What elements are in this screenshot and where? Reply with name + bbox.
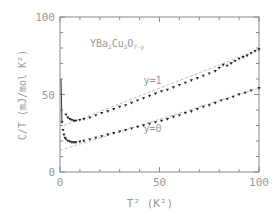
triangle-down-marker bbox=[226, 98, 229, 101]
triangle-down-marker bbox=[142, 97, 145, 100]
triangle-down-marker bbox=[214, 102, 217, 105]
triangle-down-marker bbox=[253, 50, 256, 53]
y-axis-label: C/T (mJ/mol K²) bbox=[17, 50, 28, 140]
tick-labels: 050100050100 bbox=[35, 11, 269, 189]
triangle-down-marker bbox=[130, 102, 133, 105]
y-tick-label: 50 bbox=[42, 89, 55, 102]
chart: 050100050100 y=1y=0 YBa2Cu3O7-y T² (K²) … bbox=[0, 0, 280, 216]
triangle-down-marker bbox=[196, 77, 199, 80]
triangle-down-marker bbox=[230, 62, 233, 65]
triangle-down-marker bbox=[118, 106, 121, 109]
triangle-down-marker bbox=[130, 127, 133, 130]
triangle-down-marker bbox=[178, 84, 181, 87]
triangle-down-marker bbox=[74, 141, 77, 144]
low-t-upturn bbox=[61, 79, 62, 122]
triangle-down-marker bbox=[249, 52, 252, 55]
triangle-down-marker bbox=[202, 75, 205, 78]
triangle-down-marker bbox=[124, 104, 127, 107]
triangle-down-marker bbox=[172, 116, 175, 119]
triangle-down-marker bbox=[148, 95, 151, 98]
triangle-down-marker bbox=[190, 110, 193, 113]
triangle-down-marker bbox=[82, 140, 85, 143]
triangle-down-marker bbox=[166, 89, 169, 92]
triangle-down-marker bbox=[154, 93, 157, 96]
triangle-down-marker bbox=[184, 112, 187, 115]
triangle-down-marker bbox=[218, 67, 221, 70]
triangle-down-marker bbox=[61, 129, 64, 132]
triangle-down-marker bbox=[241, 56, 244, 59]
triangle-down-marker bbox=[160, 90, 163, 93]
triangle-down-marker bbox=[214, 70, 217, 73]
y-tick-label: 0 bbox=[48, 166, 55, 179]
triangle-down-marker bbox=[190, 79, 193, 82]
triangle-down-marker bbox=[94, 114, 97, 117]
triangle-down-marker bbox=[245, 55, 248, 58]
triangle-down-marker bbox=[238, 58, 241, 61]
fit-line bbox=[64, 50, 259, 126]
x-tick-label: 100 bbox=[249, 176, 269, 189]
triangle-down-marker bbox=[64, 113, 67, 116]
series-y-0 bbox=[60, 87, 260, 144]
triangle-down-marker bbox=[196, 108, 199, 111]
series-label: y=0 bbox=[144, 123, 162, 134]
fit-lines bbox=[60, 50, 259, 151]
triangle-down-marker bbox=[226, 65, 229, 68]
triangle-down-marker bbox=[202, 106, 205, 109]
series-y-1 bbox=[64, 48, 260, 122]
x-tick-label: 0 bbox=[57, 176, 64, 189]
triangle-down-marker bbox=[222, 64, 225, 67]
triangle-down-marker bbox=[136, 126, 139, 129]
series-label: y=1 bbox=[144, 75, 162, 86]
triangle-down-marker bbox=[112, 108, 115, 111]
triangle-down-marker bbox=[100, 112, 103, 115]
x-tick-label: 50 bbox=[153, 176, 166, 189]
triangle-down-marker bbox=[88, 117, 91, 120]
triangle-down-marker bbox=[78, 141, 81, 144]
compound-annotation: YBa2Cu3O7-y bbox=[90, 38, 145, 51]
triangle-down-marker bbox=[166, 118, 169, 121]
triangle-down-marker bbox=[257, 48, 260, 51]
x-axis-label: T² (K²) bbox=[127, 197, 173, 210]
fit-line bbox=[60, 88, 259, 150]
triangle-down-marker bbox=[136, 100, 139, 103]
triangle-down-marker bbox=[208, 72, 211, 75]
triangle-down-marker bbox=[78, 119, 81, 122]
triangle-down-marker bbox=[82, 118, 85, 121]
triangle-down-marker bbox=[94, 137, 97, 140]
triangle-down-marker bbox=[106, 110, 109, 113]
triangle-down-marker bbox=[184, 82, 187, 85]
triangle-down-marker bbox=[208, 104, 211, 107]
y-tick-label: 100 bbox=[35, 11, 55, 24]
triangle-down-marker bbox=[178, 114, 181, 117]
triangle-down-marker bbox=[62, 134, 65, 137]
series-labels: y=1y=0 bbox=[144, 75, 162, 134]
triangle-down-marker bbox=[234, 60, 237, 63]
triangle-down-marker bbox=[172, 86, 175, 89]
